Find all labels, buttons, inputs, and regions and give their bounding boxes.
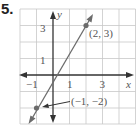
tick-y-1: 1: [40, 54, 46, 66]
tick-x-3: 3: [100, 78, 106, 90]
tick-x-1: 1: [67, 78, 73, 90]
coordinate-graph: 3 1 −1 1 3 y x (2, 3) (−1, −2): [0, 0, 140, 132]
leader-arrowhead-icon: [42, 104, 49, 109]
point-label-2-3: (2, 3): [89, 27, 113, 40]
point-label-neg1-neg2: (−1, −2): [71, 95, 108, 108]
x-axis-label: x: [125, 78, 131, 90]
leader-arrow: [42, 102, 70, 109]
y-axis-label: y: [56, 8, 62, 20]
y-axis-up-arrow-icon: [50, 11, 56, 19]
line-lower-arrow-icon: [29, 116, 36, 125]
y-axis: [50, 11, 56, 123]
tick-y-3: 3: [40, 22, 46, 34]
tick-x-neg1: −1: [26, 78, 38, 90]
point-2-3: [83, 23, 88, 28]
point-neg1-neg2: [34, 105, 39, 110]
y-axis-down-arrow-icon: [50, 115, 56, 123]
line-upper-arrow-icon: [87, 14, 94, 23]
